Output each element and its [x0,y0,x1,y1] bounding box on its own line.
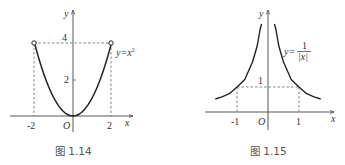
x-tick-label-1: 1 [296,116,301,127]
figure-1-14: y 4 2 -2 O 2 x y=x2 图 1.14 [10,8,135,157]
y-axis-label: y [258,8,264,19]
figure-1-15: y 1 -1 O 1 x y= 1 |x| 图 1.15 [205,8,336,157]
y-tick-label-2: 2 [64,74,69,85]
svg-text:|x|: |x| [298,51,308,62]
open-endpoint-left [32,41,36,45]
y-tick-label-1: 1 [258,75,263,86]
open-endpoint-right [109,41,113,45]
y-axis-label: y [63,8,69,19]
svg-text:y=: y= [283,46,295,57]
figure-caption: 图 1.14 [55,145,92,157]
x-tick-label-2: 2 [107,120,112,131]
x-axis-label: x [330,113,336,124]
origin-label: O [63,120,70,131]
x-axis-label: x [124,117,130,128]
hyperbola-left-branch [215,24,261,99]
origin-label: O [258,116,265,127]
x-tick-label-neg2: -2 [27,120,35,131]
function-label: y=x2 [115,47,135,58]
y-tick-label-4: 4 [62,32,67,43]
figures-canvas: y 4 2 -2 O 2 x y=x2 图 1.14 y 1 -1 O 1 x [0,0,345,165]
figure-caption: 图 1.15 [250,145,287,157]
x-tick-label-neg1: -1 [231,116,239,127]
svg-text:1: 1 [302,40,307,51]
function-label: y= 1 |x| [283,40,311,62]
